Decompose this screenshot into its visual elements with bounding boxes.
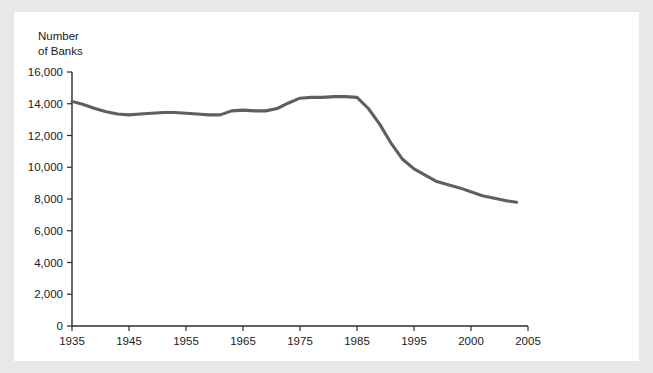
x-tick-label: 1965 [230, 335, 256, 347]
y-tick-label: 12,000 [28, 130, 63, 142]
figure-frame: Number of Banks 02,0004,0006,0008,00010,… [14, 12, 639, 361]
figure-root: Number of Banks 02,0004,0006,0008,00010,… [0, 0, 653, 373]
x-tick-label: 1995 [401, 335, 427, 347]
y-axis-ticks: 02,0004,0006,0008,00010,00012,00014,0001… [28, 66, 72, 332]
x-tick-label: 2005 [515, 335, 541, 347]
y-tick-label: 6,000 [34, 225, 63, 237]
y-tick-label: 2,000 [34, 288, 63, 300]
x-tick-label: 1935 [59, 335, 85, 347]
y-axis-label-line-2: of Banks [38, 45, 83, 57]
data-series-line [72, 97, 517, 203]
y-tick-label: 4,000 [34, 257, 63, 269]
y-tick-label: 8,000 [34, 193, 63, 205]
chart-panel: Number of Banks 02,0004,0006,0008,00010,… [14, 12, 639, 361]
x-tick-label: 2000 [458, 335, 484, 347]
x-tick-label: 1975 [287, 335, 313, 347]
y-tick-label: 14,000 [28, 98, 63, 110]
axis-lines [72, 72, 528, 326]
x-tick-label: 1945 [116, 335, 142, 347]
x-axis-ticks: 193519451955196519751985199520002005 [59, 326, 541, 347]
x-tick-label: 1985 [344, 335, 370, 347]
y-tick-label: 0 [57, 320, 63, 332]
bank-count-line-chart: Number of Banks 02,0004,0006,0008,00010,… [14, 12, 639, 361]
x-tick-label: 1955 [173, 335, 199, 347]
y-tick-label: 10,000 [28, 161, 63, 173]
y-axis-label-line-1: Number [38, 30, 79, 42]
y-axis-label: Number of Banks [38, 30, 83, 57]
y-tick-label: 16,000 [28, 66, 63, 78]
